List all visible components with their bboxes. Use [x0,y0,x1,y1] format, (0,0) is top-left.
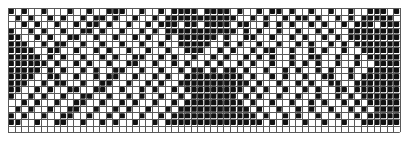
pattern-grid-canvas [8,8,402,134]
pattern-chart [0,0,415,148]
